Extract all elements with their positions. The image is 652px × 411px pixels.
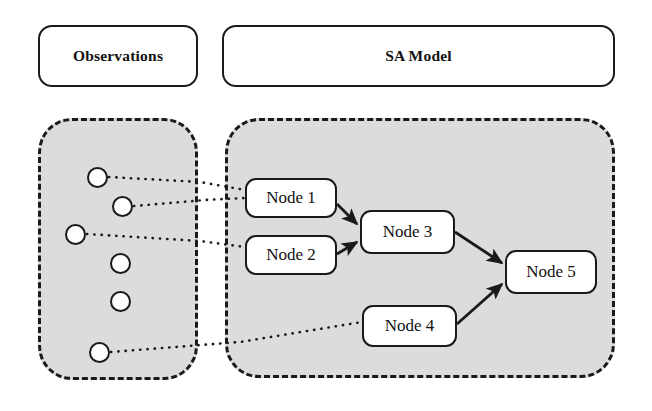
node-box-3[interactable]: Node 3 [360, 210, 455, 254]
node-box-1[interactable]: Node 1 [245, 178, 337, 218]
sa-model-header-label: SA Model [385, 47, 452, 65]
node-label-3: Node 3 [383, 222, 433, 242]
node-label-4: Node 4 [385, 316, 435, 336]
node-box-5[interactable]: Node 5 [505, 250, 597, 294]
node-label-1: Node 1 [266, 188, 316, 208]
observation-circle-4[interactable] [110, 253, 131, 274]
node-box-4[interactable]: Node 4 [362, 305, 457, 347]
observation-circle-1[interactable] [87, 167, 108, 188]
diagram-canvas: Observations SA Model Node 1 Node 2 [0, 0, 652, 411]
observation-circle-3[interactable] [65, 224, 86, 245]
observation-circle-2[interactable] [112, 196, 133, 217]
node-label-5: Node 5 [526, 262, 576, 282]
observations-header-box: Observations [38, 25, 198, 87]
observations-panel [38, 118, 198, 380]
observation-circle-6[interactable] [89, 342, 110, 363]
observations-header-label: Observations [73, 47, 163, 65]
observation-circle-5[interactable] [110, 291, 131, 312]
sa-model-header-box: SA Model [222, 25, 615, 87]
node-box-2[interactable]: Node 2 [245, 235, 337, 275]
node-label-2: Node 2 [266, 245, 316, 265]
